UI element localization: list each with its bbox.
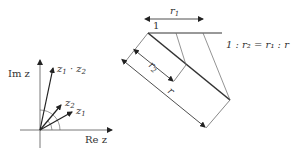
label-z1-z2-product: z1 · z2 <box>56 63 87 76</box>
vector-z1 <box>40 112 72 130</box>
label-r2: r2 <box>145 59 161 75</box>
perp-long <box>206 100 230 128</box>
thick-diagonal <box>148 33 230 100</box>
perp-short <box>174 65 186 81</box>
figure-canvas: Im z Re z z1 · z2 z2 z1 r1 1 r2 r <box>0 0 303 155</box>
ratio-equation: 1 : r₂ = r₁ : r <box>226 39 290 50</box>
label-r: r <box>166 85 178 97</box>
complex-plane-diagram: Im z Re z z1 · z2 z2 z1 <box>8 60 112 148</box>
label-one: 1 <box>153 20 159 31</box>
label-z1: z1 <box>75 105 86 118</box>
ratio-construction-diagram: r1 1 r2 r 1 : r₂ = r₁ : r <box>125 5 290 128</box>
axis-label-im: Im z <box>8 68 30 79</box>
axis-label-re: Re z <box>85 134 107 145</box>
dimension-arrow-r <box>125 62 205 127</box>
label-r1: r1 <box>170 5 179 18</box>
vector-z1-z2-product <box>40 68 53 130</box>
label-z2: z2 <box>64 97 75 110</box>
